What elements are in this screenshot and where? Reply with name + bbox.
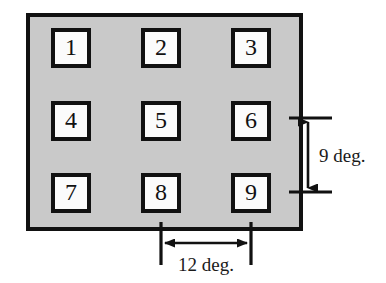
cell-1-label: 1 [65,34,77,60]
cell-5[interactable]: 5 [143,103,179,139]
cell-4-label: 4 [65,107,77,133]
vertical-dimension-label: 9 deg. [319,145,365,166]
cell-9[interactable]: 9 [233,175,269,211]
cell-grid: 1 2 3 4 5 6 [53,30,269,211]
cell-6[interactable]: 6 [233,103,269,139]
cell-4[interactable]: 4 [53,103,89,139]
horizontal-dimension-label: 12 deg. [178,254,234,275]
cell-3[interactable]: 3 [233,30,269,66]
cell-6-label: 6 [245,107,257,133]
cell-7-label: 7 [65,179,77,205]
cell-8-label: 8 [155,179,167,205]
figure-container: 1 2 3 4 5 6 [0,0,386,283]
cell-7[interactable]: 7 [53,175,89,211]
cell-1[interactable]: 1 [53,30,89,66]
cell-9-label: 9 [245,179,257,205]
cell-3-label: 3 [245,34,257,60]
cell-2[interactable]: 2 [143,30,179,66]
cell-8[interactable]: 8 [143,175,179,211]
cell-2-label: 2 [155,34,167,60]
stimulus-array-diagram: 1 2 3 4 5 6 [0,0,386,283]
cell-5-label: 5 [155,107,167,133]
